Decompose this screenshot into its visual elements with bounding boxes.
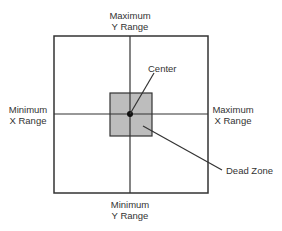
max-x-line2: X Range [208,115,258,126]
min-y-line1: Minimum [105,199,155,210]
max-y-range-label: Maximum Y Range [105,10,155,32]
min-x-line1: Minimum [5,104,51,115]
center-label: Center [148,63,177,74]
max-x-line1: Maximum [208,104,258,115]
max-y-line1: Maximum [105,10,155,21]
max-y-line2: Y Range [105,21,155,32]
min-x-line2: X Range [5,115,51,126]
min-y-line2: Y Range [105,210,155,221]
max-x-range-label: Maximum X Range [208,104,258,126]
dead-zone-leader-line [143,126,222,170]
min-x-range-label: Minimum X Range [5,104,51,126]
dead-zone-label: Dead Zone [226,165,273,176]
min-y-range-label: Minimum Y Range [105,199,155,221]
